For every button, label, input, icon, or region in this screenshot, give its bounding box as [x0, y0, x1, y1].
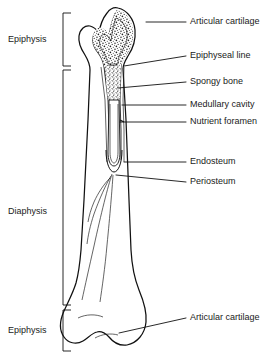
bracket-epiphysis-proximal: Epiphysis: [8, 13, 71, 66]
label-epiphyseal-line: Epiphyseal line: [190, 50, 251, 60]
bracket-label-epiphysis-proximal: Epiphysis: [8, 34, 47, 44]
label-endosteum: Endosteum: [190, 156, 236, 166]
bracket-label-diaphysis: Diaphysis: [8, 206, 48, 216]
bracket-label-epiphysis-distal: Epiphysis: [8, 325, 47, 335]
region-brackets: Epiphysis Diaphysis Epiphysis: [8, 13, 71, 351]
label-periosteum: Periosteum: [190, 176, 236, 186]
bone-diagram-figure: Epiphysis Diaphysis Epiphysis Articular …: [0, 0, 280, 359]
spongy-fade: [106, 64, 122, 98]
long-bone-diagram-svg: Epiphysis Diaphysis Epiphysis Articular …: [0, 0, 280, 359]
bracket-diaphysis: Diaphysis: [8, 70, 71, 305]
label-medullary-cavity: Medullary cavity: [190, 99, 255, 109]
label-nutrient-foramen: Nutrient foramen: [190, 116, 257, 126]
label-articular-cartilage-proximal: Articular cartilage: [190, 16, 260, 26]
leader-epiphyseal-line: [124, 56, 186, 66]
label-articular-cartilage-distal: Articular cartilage: [190, 312, 260, 322]
label-spongy-bone: Spongy bone: [190, 76, 243, 86]
leader-spongy-bone: [118, 82, 186, 88]
